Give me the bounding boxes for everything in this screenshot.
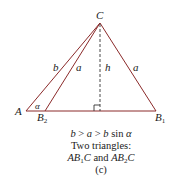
angle-label-alpha: α (35, 101, 40, 111)
side-label-h: h (105, 61, 111, 73)
caption-and: and (91, 152, 111, 163)
caption-two-triangles: Two triangles: (71, 140, 131, 151)
side-label-b: b (53, 61, 59, 73)
caption-t1-ab: AB (66, 152, 80, 163)
vertex-b1-subscript: 1 (162, 117, 166, 125)
vertex-label-a: A (14, 105, 22, 117)
vertex-b2-subscript: 2 (44, 117, 48, 125)
vertex-label-b2: B2 (37, 111, 48, 125)
caption-t2-ab: AB (110, 152, 124, 163)
caption-gt2: > (92, 128, 103, 139)
side-b-line (26, 23, 100, 111)
side-label-a-outer: a (133, 61, 139, 73)
triangle-diagram: C A B2 B1 b a h a α b > a > b sin α Two … (0, 0, 177, 179)
caption-condition: b > a > b sin α (70, 128, 132, 139)
caption-part-label: (c) (95, 164, 107, 176)
side-label-a-inner: a (76, 61, 82, 73)
caption-t2-c: C (128, 152, 136, 163)
caption-alpha: α (126, 128, 132, 139)
right-angle-marker (94, 105, 100, 111)
caption-gt1: > (76, 128, 87, 139)
vertex-label-b1: B1 (155, 111, 166, 125)
caption-sin: sin (109, 128, 127, 139)
vertex-label-c: C (96, 9, 104, 21)
